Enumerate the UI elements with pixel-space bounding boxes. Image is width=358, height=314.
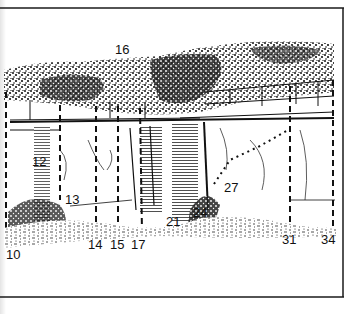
cliff-illustration [0, 0, 358, 314]
route-label-16: 16 [115, 43, 129, 56]
route-label-13: 13 [65, 193, 79, 206]
route-label-34: 34 [321, 233, 335, 246]
route-label-14: 14 [88, 238, 102, 251]
route-label-24: 24 [193, 206, 207, 219]
route-27 [214, 130, 288, 184]
route-label-10: 10 [6, 248, 20, 261]
route-label-17: 17 [131, 238, 145, 251]
cliff-topo-figure [0, 0, 358, 314]
route-label-12: 12 [32, 155, 46, 168]
route-label-31: 31 [282, 233, 296, 246]
route-label-15: 15 [110, 238, 124, 251]
route-label-21: 21 [166, 215, 180, 228]
route-label-27: 27 [224, 181, 238, 194]
